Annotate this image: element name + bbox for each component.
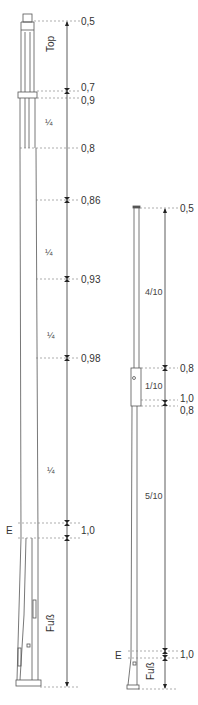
segment-label-e: E xyxy=(6,525,13,536)
segment-fraction: ¼ xyxy=(45,247,53,257)
dim-label: 1,0 xyxy=(180,393,194,404)
segment-fraction: ¼ xyxy=(47,330,55,340)
segment-fraction: 5/10 xyxy=(145,491,163,501)
right-pole xyxy=(127,206,141,689)
dim-label: 0,8 xyxy=(180,363,194,374)
dim-label: 1,0 xyxy=(81,525,95,536)
dim-label: 0,5 xyxy=(180,203,194,214)
dim-label: 0,8 xyxy=(81,143,95,154)
dim-label: 0,5 xyxy=(81,16,95,27)
segment-fraction: ¼ xyxy=(47,465,55,475)
dim-label: 0,86 xyxy=(81,195,101,206)
segment-fraction: 1/10 xyxy=(145,381,163,391)
left-pole xyxy=(16,14,41,686)
segment-label-foot: Fuß xyxy=(45,614,56,632)
segment-fraction: 4/10 xyxy=(145,287,163,297)
dim-label: 0,9 xyxy=(81,95,95,106)
dim-label: 0,98 xyxy=(81,353,101,364)
dim-label: 1,0 xyxy=(180,649,194,660)
segment-label-e: E xyxy=(115,650,122,661)
segment-fraction: ¼ xyxy=(45,117,53,127)
pole-diagram: 0,5 0,7 0,9 0,8 0,86 0,93 0,98 1,0 E ¼ ¼… xyxy=(0,0,198,705)
dim-label: 0,93 xyxy=(81,274,101,285)
dim-label: 0,8 xyxy=(180,405,194,416)
dim-label: 0,7 xyxy=(81,82,95,93)
segment-label-top: Top xyxy=(45,35,56,52)
segment-label-foot: Fuß xyxy=(145,662,156,680)
